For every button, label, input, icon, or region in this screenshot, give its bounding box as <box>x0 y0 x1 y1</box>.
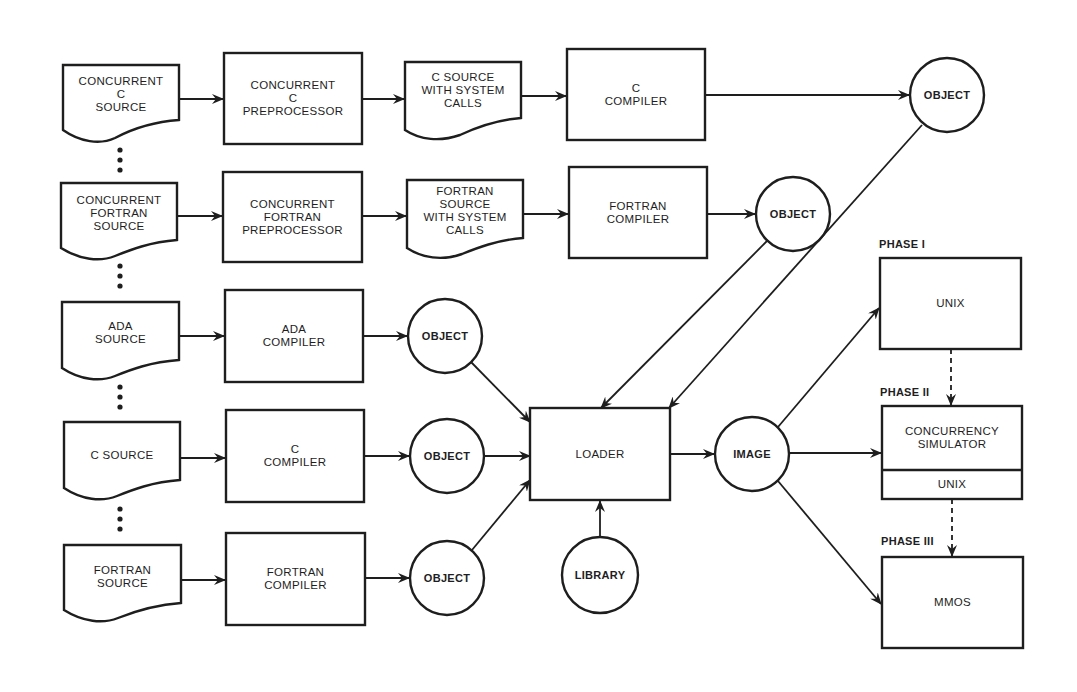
label-phase-2-unix: UNIX <box>882 470 1022 499</box>
label-concurrent-c-preprocessor: CONCURRENT C PREPROCESSOR <box>224 53 362 144</box>
label-object-5: OBJECT <box>410 541 484 615</box>
label-phase-3-mmos: MMOS <box>882 557 1023 648</box>
label-library: LIBRARY <box>562 537 638 613</box>
label-fortran-source-with-system-calls: FORTRAN SOURCE WITH SYSTEM CALLS <box>407 180 523 242</box>
label-phase-2: PHASE II <box>880 386 929 398</box>
label-object-3: OBJECT <box>408 299 482 373</box>
label-object-4: OBJECT <box>410 419 484 493</box>
label-c-source: C SOURCE <box>64 422 180 488</box>
label-fortran-source: FORTRAN SOURCE <box>64 545 181 609</box>
label-phase-3: PHASE III <box>881 535 934 547</box>
label-fortran-compiler: FORTRAN COMPILER <box>226 533 365 625</box>
label-loader: LOADER <box>530 408 670 500</box>
label-ada-source: ADA SOURCE <box>62 302 179 364</box>
label-phase-1: PHASE I <box>879 238 925 250</box>
label-object-1: OBJECT <box>910 58 984 132</box>
label-c-compiler-top: C COMPILER <box>567 49 705 140</box>
label-concurrent-c-source: CONCURRENT C SOURCE <box>63 65 179 123</box>
arrow <box>778 308 879 427</box>
label-phase-1-unix: UNIX <box>880 258 1021 349</box>
label-image: IMAGE <box>715 417 789 491</box>
label-concurrent-fortran-source: CONCURRENT FORTRAN SOURCE <box>61 183 177 243</box>
label-c-compiler: C COMPILER <box>226 410 364 502</box>
label-fortran-compiler-top: FORTRAN COMPILER <box>569 167 707 258</box>
label-ada-compiler: ADA COMPILER <box>225 290 363 382</box>
label-concurrent-fortran-preprocessor: CONCURRENT FORTRAN PREPROCESSOR <box>223 172 362 262</box>
arrow <box>778 481 881 604</box>
label-object-2: OBJECT <box>756 177 830 251</box>
label-concurrency-simulator: CONCURRENCY SIMULATOR <box>882 406 1022 470</box>
label-c-source-with-system-calls: C SOURCE WITH SYSTEM CALLS <box>405 62 521 118</box>
